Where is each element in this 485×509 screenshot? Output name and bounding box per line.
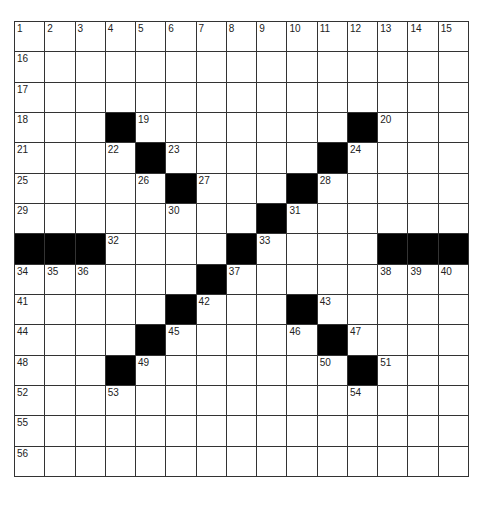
grid-cell[interactable] (166, 52, 196, 82)
grid-cell[interactable] (106, 416, 136, 446)
grid-cell[interactable] (318, 83, 348, 113)
grid-cell[interactable]: 2 (45, 22, 75, 52)
grid-cell[interactable] (197, 325, 227, 355)
grid-cell[interactable] (136, 52, 166, 82)
grid-cell[interactable] (106, 204, 136, 234)
grid-cell[interactable] (166, 113, 196, 143)
grid-cell[interactable] (318, 113, 348, 143)
grid-cell[interactable]: 50 (318, 356, 348, 386)
grid-cell[interactable] (408, 83, 438, 113)
grid-cell[interactable] (197, 204, 227, 234)
grid-cell[interactable] (136, 295, 166, 325)
grid-cell[interactable] (227, 113, 257, 143)
grid-cell[interactable] (45, 113, 75, 143)
grid-cell[interactable] (439, 416, 469, 446)
grid-cell[interactable]: 46 (287, 325, 317, 355)
grid-cell[interactable]: 33 (257, 234, 287, 264)
grid-cell[interactable] (76, 143, 106, 173)
grid-cell[interactable] (439, 295, 469, 325)
grid-cell[interactable] (257, 356, 287, 386)
grid-cell[interactable] (257, 325, 287, 355)
grid-cell[interactable] (439, 174, 469, 204)
grid-cell[interactable] (287, 356, 317, 386)
grid-cell[interactable]: 24 (348, 143, 378, 173)
grid-cell[interactable] (408, 52, 438, 82)
grid-cell[interactable] (408, 356, 438, 386)
grid-cell[interactable] (136, 234, 166, 264)
grid-cell[interactable] (166, 356, 196, 386)
grid-cell[interactable] (348, 174, 378, 204)
grid-cell[interactable] (439, 83, 469, 113)
grid-cell[interactable] (45, 386, 75, 416)
grid-cell[interactable] (166, 83, 196, 113)
grid-cell[interactable] (257, 386, 287, 416)
grid-cell[interactable] (136, 83, 166, 113)
grid-cell[interactable]: 11 (318, 22, 348, 52)
grid-cell[interactable]: 49 (136, 356, 166, 386)
grid-cell[interactable]: 7 (197, 22, 227, 52)
grid-cell[interactable] (378, 386, 408, 416)
grid-cell[interactable] (227, 143, 257, 173)
grid-cell[interactable] (227, 204, 257, 234)
grid-cell[interactable] (378, 174, 408, 204)
grid-cell[interactable]: 26 (136, 174, 166, 204)
grid-cell[interactable] (197, 52, 227, 82)
grid-cell[interactable] (197, 416, 227, 446)
grid-cell[interactable]: 10 (287, 22, 317, 52)
grid-cell[interactable] (227, 447, 257, 477)
grid-cell[interactable]: 13 (378, 22, 408, 52)
grid-cell[interactable] (45, 447, 75, 477)
grid-cell[interactable] (257, 52, 287, 82)
grid-cell[interactable] (106, 447, 136, 477)
grid-cell[interactable] (76, 416, 106, 446)
grid-cell[interactable] (348, 416, 378, 446)
grid-cell[interactable] (45, 174, 75, 204)
grid-cell[interactable] (76, 52, 106, 82)
grid-cell[interactable] (348, 295, 378, 325)
grid-cell[interactable] (378, 416, 408, 446)
grid-cell[interactable] (378, 325, 408, 355)
grid-cell[interactable] (287, 83, 317, 113)
grid-cell[interactable] (348, 265, 378, 295)
grid-cell[interactable] (76, 447, 106, 477)
grid-cell[interactable]: 52 (15, 386, 45, 416)
grid-cell[interactable]: 18 (15, 113, 45, 143)
grid-cell[interactable]: 41 (15, 295, 45, 325)
grid-cell[interactable]: 56 (15, 447, 45, 477)
grid-cell[interactable] (106, 174, 136, 204)
grid-cell[interactable] (318, 265, 348, 295)
grid-cell[interactable] (287, 416, 317, 446)
grid-cell[interactable]: 1 (15, 22, 45, 52)
grid-cell[interactable] (166, 416, 196, 446)
grid-cell[interactable] (257, 174, 287, 204)
grid-cell[interactable] (348, 52, 378, 82)
grid-cell[interactable] (348, 204, 378, 234)
grid-cell[interactable] (257, 113, 287, 143)
grid-cell[interactable] (45, 143, 75, 173)
grid-cell[interactable] (318, 204, 348, 234)
grid-cell[interactable] (287, 386, 317, 416)
grid-cell[interactable] (257, 416, 287, 446)
grid-cell[interactable]: 37 (227, 265, 257, 295)
grid-cell[interactable] (408, 204, 438, 234)
grid-cell[interactable] (136, 204, 166, 234)
grid-cell[interactable] (408, 447, 438, 477)
grid-cell[interactable] (408, 174, 438, 204)
grid-cell[interactable]: 43 (318, 295, 348, 325)
grid-cell[interactable] (227, 416, 257, 446)
grid-cell[interactable]: 48 (15, 356, 45, 386)
grid-cell[interactable] (166, 265, 196, 295)
grid-cell[interactable] (76, 204, 106, 234)
grid-cell[interactable] (197, 356, 227, 386)
grid-cell[interactable]: 55 (15, 416, 45, 446)
grid-cell[interactable]: 19 (136, 113, 166, 143)
grid-cell[interactable] (408, 325, 438, 355)
grid-cell[interactable] (76, 356, 106, 386)
grid-cell[interactable]: 29 (15, 204, 45, 234)
grid-cell[interactable] (106, 265, 136, 295)
grid-cell[interactable]: 31 (287, 204, 317, 234)
grid-cell[interactable]: 20 (378, 113, 408, 143)
grid-cell[interactable] (408, 416, 438, 446)
grid-cell[interactable]: 53 (106, 386, 136, 416)
grid-cell[interactable] (76, 386, 106, 416)
